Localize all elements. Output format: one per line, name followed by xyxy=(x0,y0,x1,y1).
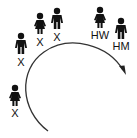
figure-label: X xyxy=(17,57,24,68)
figure-label: X xyxy=(53,32,60,43)
figure-label: X xyxy=(11,108,18,119)
lineage-diagram xyxy=(0,0,137,138)
male-figure-icon xyxy=(115,18,127,39)
figure-label-hw: HW xyxy=(91,30,109,41)
arrowhead-icon xyxy=(119,66,126,76)
male-figure-icon xyxy=(51,8,63,29)
female-figure-icon xyxy=(34,13,46,34)
male-figure-icon xyxy=(15,33,27,54)
succession-arc xyxy=(26,43,123,131)
female-figure-icon xyxy=(94,7,106,28)
figure-label: X xyxy=(36,37,43,48)
female-figure-icon xyxy=(9,85,21,106)
figure-label-hm: HM xyxy=(112,41,129,52)
